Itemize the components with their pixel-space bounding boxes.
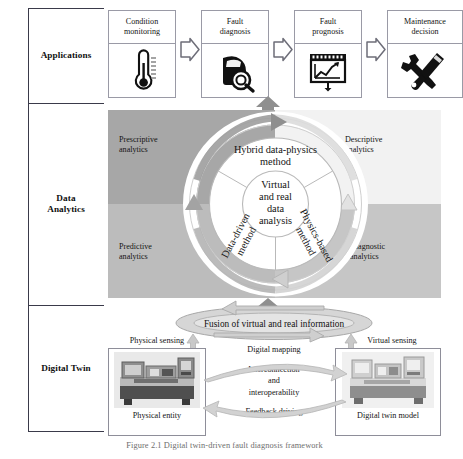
svg-text:and real: and real [259, 191, 292, 202]
digital-twin-row: Fusion of virtual and real information P… [108, 306, 441, 432]
curved-arrow-right-icon [202, 362, 348, 384]
svg-text:Hybrid data-physics: Hybrid data-physics [234, 144, 317, 155]
chevron-arrow-right-icon-2 [272, 37, 294, 62]
thermometer-icon [109, 44, 175, 98]
row-divider-applications-analytics [28, 103, 104, 104]
trend-chart-board-icon [295, 44, 361, 98]
row-label-data-analytics-line2: Analytics [28, 204, 104, 215]
svg-text:data: data [267, 203, 285, 214]
app-card-condition-monitoring-label: Condition monitoring [109, 11, 175, 44]
app-card-fault-diagnosis-label: Fault diagnosis [202, 11, 268, 44]
app-card-fault-prognosis[interactable]: Fault prognosis [294, 10, 362, 98]
app-card-maintenance-decision[interactable]: Maintenance decision [387, 10, 463, 98]
row-label-digital-twin: Digital Twin [28, 363, 104, 374]
svg-text:method: method [260, 156, 292, 167]
label-interoperability: interoperability [218, 387, 330, 398]
physical-entity-caption: Physical entity [109, 411, 205, 421]
svg-text:analysis: analysis [259, 215, 292, 226]
cnc-lathe-machine-photo [109, 349, 205, 411]
row-divider-analytics-digitaltwin [28, 305, 104, 306]
app-card-maintenance-decision-label: Maintenance decision [388, 11, 462, 44]
analysis-wheel: Hybrid data-physics method Data-driven m… [183, 110, 368, 298]
applications-row: Condition monitoring [108, 10, 441, 98]
digital-twin-model-card[interactable]: Digital twin model [335, 348, 441, 436]
app-card-fault-prognosis-label: Fault prognosis [295, 11, 361, 44]
quadrant-label-prescriptive: Prescriptive analytics [119, 135, 158, 155]
curved-arrow-left-icon [202, 398, 348, 420]
label-physical-sensing: Physical sensing [108, 336, 206, 346]
digital-twin-model-caption: Digital twin model [336, 411, 440, 421]
row-label-data-analytics-line1: Data [28, 193, 104, 204]
row-label-data-analytics: Data Analytics [28, 193, 104, 215]
data-analytics-row: Prescriptive analytics Descriptive analy… [108, 110, 441, 298]
label-virtual-sensing: Virtual sensing [343, 336, 441, 346]
magnifier-car-icon [202, 44, 268, 98]
cnc-lathe-digital-model-photo [336, 349, 440, 411]
wrench-screwdriver-icon [388, 44, 462, 98]
label-digital-mapping: Digital mapping [218, 344, 330, 355]
quadrant-label-predictive: Predictive analytics [119, 242, 152, 262]
app-card-condition-monitoring[interactable]: Condition monitoring [108, 10, 176, 98]
physical-entity-card[interactable]: Physical entity [108, 348, 206, 436]
chevron-arrow-right-icon-3 [365, 37, 387, 62]
app-card-fault-diagnosis[interactable]: Fault diagnosis [201, 10, 269, 98]
figure-caption: Figure 2.1 Digital twin-driven fault dia… [0, 441, 449, 450]
row-label-applications: Applications [28, 50, 104, 61]
chevron-arrow-right-icon-1 [179, 37, 201, 62]
svg-text:Virtual: Virtual [261, 179, 290, 190]
